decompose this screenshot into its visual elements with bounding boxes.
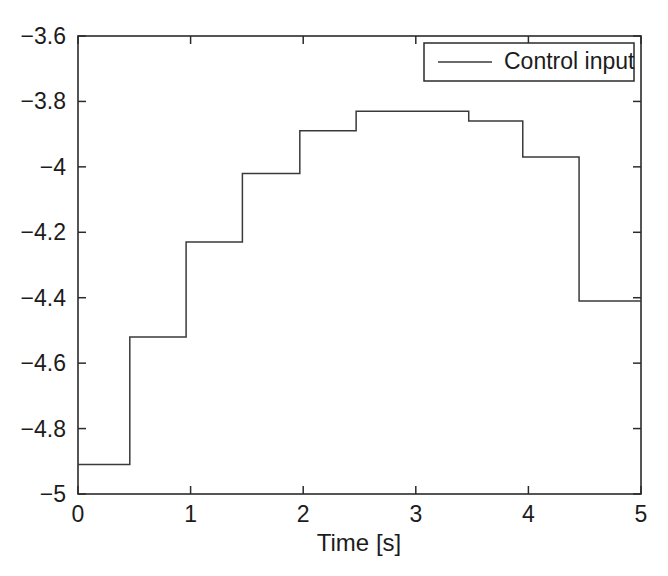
y-axis-tick-label: −4.2 (21, 219, 66, 245)
x-axis-tick-label: 0 (72, 501, 85, 527)
x-axis-ticks (78, 36, 641, 494)
x-axis-tick-label: 5 (635, 501, 648, 527)
y-axis-tick-label: −3.6 (21, 23, 66, 49)
y-axis-tick-label: −4.6 (21, 350, 66, 376)
chart-figure: −3.6−3.8−4−4.2−4.4−4.6−4.8−5 012345 Cont… (0, 0, 668, 576)
y-axis-tick-label: −4.4 (21, 285, 67, 311)
x-axis-tick-label: 4 (522, 501, 535, 527)
x-axis-title: Time [s] (317, 529, 401, 556)
y-axis-tick-label: −4 (40, 154, 66, 180)
chart-canvas: −3.6−3.8−4−4.2−4.4−4.6−4.8−5 012345 Cont… (0, 0, 668, 576)
x-axis-tick-label: 1 (184, 501, 197, 527)
x-axis-tick-label: 3 (409, 501, 422, 527)
data-series-group (78, 111, 641, 464)
y-axis-tick-label: −4.8 (21, 416, 66, 442)
x-axis-tick-label: 2 (297, 501, 310, 527)
y-axis-ticks (78, 36, 641, 494)
plot-frame (78, 36, 641, 494)
data-line-control-input (78, 111, 641, 464)
y-axis-tick-labels: −3.6−3.8−4−4.2−4.4−4.6−4.8−5 (21, 23, 67, 507)
chart-legend[interactable]: Control input (424, 43, 635, 81)
legend-label: Control input (504, 48, 635, 74)
y-axis-tick-label: −3.8 (21, 88, 66, 114)
x-axis-tick-labels: 012345 (72, 501, 648, 527)
y-axis-tick-label: −5 (40, 481, 66, 507)
